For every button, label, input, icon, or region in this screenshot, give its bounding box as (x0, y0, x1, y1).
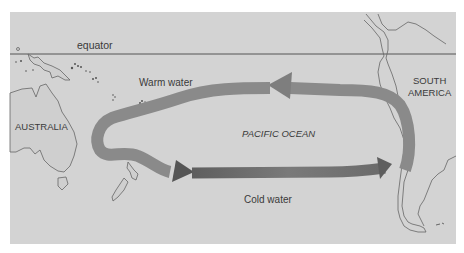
south-america-east-coast (378, 14, 446, 44)
cold-water-label: Cold water (244, 194, 292, 205)
warm-arrow-head-icon (268, 72, 292, 99)
south-america-landmass (364, 14, 426, 232)
south-america-patagonia-coast (418, 156, 456, 226)
south-america-label-line2: AMERICA (408, 87, 451, 99)
tasmania (58, 177, 68, 190)
new-zealand-north (127, 162, 138, 180)
cold-arrow-head-left-icon (172, 160, 194, 182)
south-america-label-line1: SOUTH (408, 75, 451, 87)
map-graphic (0, 0, 464, 253)
equator-label: equator (77, 40, 113, 51)
cold-current-arrow-body (192, 168, 385, 173)
warm-water-label: Warm water (139, 77, 193, 88)
cold-arrow-head-right-icon (377, 157, 392, 179)
australia-label: AUSTRALIA (15, 121, 68, 132)
pacific-ocean-label: PACIFIC OCEAN (242, 128, 315, 139)
south-america-label: SOUTH AMERICA (408, 75, 451, 99)
new-zealand-south (112, 178, 128, 201)
new-guinea (28, 54, 70, 80)
falkland-islands (436, 223, 444, 225)
